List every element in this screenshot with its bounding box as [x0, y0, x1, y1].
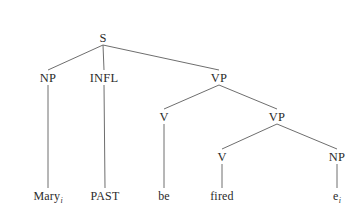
tree-node-label: e: [333, 189, 339, 203]
tree-node-label: PAST: [90, 189, 119, 203]
tree-node-label: NP: [40, 71, 56, 85]
tree-node-index-subscript: i: [339, 196, 341, 205]
tree-node-label: NP: [329, 150, 345, 164]
tree-node-fired: fired: [210, 190, 234, 202]
tree-node-infl: INFL: [90, 72, 119, 85]
tree-node-s: S: [99, 32, 106, 45]
tree-node-v1: V: [159, 111, 168, 124]
syntax-tree-figure: SNPINFLVPVVPVNPMaryiPASTbefiredei: [0, 0, 358, 216]
tree-edge-vp2-np2: [277, 124, 337, 149]
tree-node-label: be: [158, 189, 170, 203]
tree-edge-layer: [0, 0, 358, 216]
tree-edge-s-np1: [48, 45, 103, 70]
tree-edge-infl-past: [104, 85, 105, 188]
tree-node-np2: NP: [329, 151, 345, 164]
tree-node-label: V: [217, 150, 226, 164]
tree-edge-vp1-vp2: [219, 85, 277, 109]
tree-node-v2: V: [217, 151, 226, 164]
tree-edge-s-vp1: [103, 45, 219, 70]
tree-edge-s-infl: [103, 45, 104, 70]
tree-node-vp1: VP: [211, 72, 227, 85]
tree-node-past: PAST: [90, 190, 119, 202]
tree-edge-vp2-v2: [222, 124, 277, 149]
tree-node-vp2: VP: [269, 111, 285, 124]
tree-node-trace: ei: [333, 190, 341, 202]
tree-node-np1: NP: [40, 72, 56, 85]
tree-node-mary: Maryi: [33, 190, 62, 202]
tree-node-be: be: [158, 190, 170, 202]
tree-node-label: fired: [210, 189, 234, 203]
tree-node-label: VP: [269, 110, 285, 124]
tree-node-label: V: [159, 110, 168, 124]
tree-edge-vp1-v1: [164, 85, 219, 109]
tree-node-label: Mary: [33, 189, 60, 203]
tree-node-index-subscript: i: [60, 196, 62, 205]
tree-node-label: INFL: [90, 71, 119, 85]
tree-node-label: S: [99, 31, 106, 45]
tree-node-label: VP: [211, 71, 227, 85]
